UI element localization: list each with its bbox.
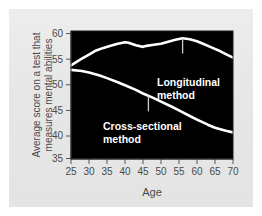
- y-axis-title-line-2: measures mental abilities: [43, 39, 54, 152]
- y-tick-label: 35: [52, 153, 64, 164]
- x-tick-label: 65: [209, 166, 221, 177]
- x-axis-ticks: [71, 159, 233, 164]
- cross-sectional-annotation-line-2: method: [103, 133, 141, 145]
- x-tick-label: 40: [119, 166, 131, 177]
- y-axis-ticks: [66, 34, 71, 159]
- longitudinal-annotation-line-1: Longitudinal: [157, 76, 220, 88]
- x-tick-label: 45: [137, 166, 149, 177]
- y-tick-label: 60: [52, 28, 64, 39]
- x-tick-label: 35: [101, 166, 113, 177]
- chart-container: 60 55 50 45 40 35 25: [0, 0, 262, 216]
- x-tick-label: 60: [191, 166, 203, 177]
- cross-sectional-annotation-line-1: Cross-sectional: [103, 120, 182, 132]
- x-axis-title: Age: [142, 186, 162, 198]
- x-axis-tick-labels: 25 30 35 40 45 50 55 60 65 70: [65, 166, 239, 177]
- x-tick-label: 25: [65, 166, 77, 177]
- x-tick-label: 50: [155, 166, 167, 177]
- x-tick-label: 70: [227, 166, 239, 177]
- longitudinal-annotation-line-2: method: [157, 89, 195, 101]
- figure-root: 60 55 50 45 40 35 25: [0, 0, 262, 216]
- y-axis-title-line-1: Average score on a test that: [31, 32, 42, 157]
- line-chart: 60 55 50 45 40 35 25: [0, 0, 262, 216]
- x-tick-label: 55: [173, 166, 185, 177]
- x-tick-label: 30: [83, 166, 95, 177]
